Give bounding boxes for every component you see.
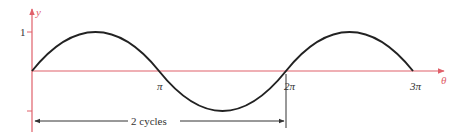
- cycles-annotation-label: 2 cycles: [131, 115, 167, 127]
- y-tick-label-1: 1: [20, 26, 26, 38]
- sine-curve-layer: y θ 1 π 2π 3π 2 cycles: [0, 0, 464, 138]
- x-tick-label-3pi: 3π: [409, 80, 422, 92]
- y-axis-label: y: [35, 6, 41, 18]
- x-tick-label-pi: π: [157, 80, 163, 92]
- x-tick-label-2pi: 2π: [284, 80, 296, 92]
- x-axis-label: θ: [441, 74, 447, 86]
